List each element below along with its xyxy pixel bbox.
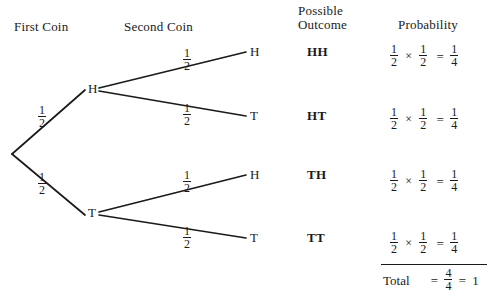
fraction-numerator: 1 (390, 43, 398, 55)
probability-expression-ht: 1 2 × 1 2 = 1 4 (390, 107, 458, 132)
branch-t-to-th (99, 175, 246, 212)
node-second-coin-t-2: T (250, 231, 258, 244)
node-first-coin-h: H (88, 82, 97, 95)
fraction-denominator: 2 (38, 116, 46, 129)
branch-h-to-ht (99, 91, 246, 116)
branch-prob-second-th: 1 2 (183, 170, 191, 195)
outcome-tt: TT (307, 231, 325, 244)
fraction-denominator: 2 (390, 180, 398, 193)
probability-expression-tt: 1 2 × 1 2 = 1 4 (390, 231, 458, 256)
outcome-hh: HH (307, 45, 328, 58)
branch-prob-second-ht: 1 2 (183, 103, 191, 128)
fraction-denominator: 2 (38, 183, 46, 196)
node-first-coin-t: T (88, 206, 96, 219)
fraction-denominator: 2 (419, 180, 427, 193)
header-possible-outcome-line1: Possible (298, 4, 343, 17)
fraction-denominator: 2 (183, 114, 191, 127)
fraction-numerator: 1 (390, 106, 398, 118)
multiply-symbol: × (401, 112, 416, 127)
branch-root-to-t (12, 154, 85, 215)
fraction-numerator: 1 (419, 106, 427, 118)
node-second-coin-h-2: H (250, 168, 259, 181)
total-label: Total (383, 273, 410, 289)
fraction-numerator: 1 (419, 230, 427, 242)
total-equals-2: = (456, 273, 469, 289)
fraction-numerator: 1 (390, 168, 398, 180)
fraction-numerator: 1 (450, 230, 458, 242)
node-second-coin-h-1: H (250, 45, 259, 58)
node-second-coin-t-1: T (250, 109, 258, 122)
fraction-denominator: 4 (444, 279, 452, 292)
outcome-ht: HT (307, 109, 327, 122)
fraction-numerator: 1 (183, 102, 191, 114)
fraction-denominator: 2 (183, 237, 191, 250)
probability-tree-diagram: First Coin Second Coin Possible Outcome … (0, 0, 496, 299)
fraction-denominator: 2 (390, 242, 398, 255)
fraction-denominator: 2 (419, 55, 427, 68)
fraction-denominator: 2 (390, 55, 398, 68)
fraction-numerator: 1 (450, 168, 458, 180)
fraction-denominator: 4 (450, 118, 458, 131)
fraction-denominator: 2 (390, 118, 398, 131)
multiply-symbol: × (401, 236, 416, 251)
fraction-numerator: 1 (38, 104, 46, 116)
fraction-numerator: 1 (38, 171, 46, 183)
total-row: Total = 4 4 = 1 (383, 268, 479, 293)
header-probability: Probability (398, 18, 458, 31)
header-first-coin: First Coin (14, 20, 68, 33)
header-second-coin: Second Coin (124, 20, 193, 33)
fraction-denominator: 4 (450, 180, 458, 193)
fraction-numerator: 1 (183, 169, 191, 181)
fraction-numerator: 1 (183, 225, 191, 237)
fraction-denominator: 4 (450, 242, 458, 255)
probability-expression-th: 1 2 × 1 2 = 1 4 (390, 169, 458, 194)
fraction-numerator: 1 (450, 106, 458, 118)
fraction-denominator: 2 (183, 181, 191, 194)
fraction-numerator: 1 (450, 43, 458, 55)
probability-expression-hh: 1 2 × 1 2 = 1 4 (390, 44, 458, 69)
equals-symbol: = (431, 112, 447, 128)
outcome-th: TH (307, 168, 327, 181)
branch-h-to-hh (99, 52, 246, 88)
branch-t-to-tt (99, 215, 246, 238)
total-equals-1: = (413, 273, 441, 289)
equals-symbol: = (431, 174, 447, 190)
multiply-symbol: × (401, 174, 416, 189)
fraction-denominator: 4 (450, 55, 458, 68)
multiply-symbol: × (401, 49, 416, 64)
branch-prob-second-tt: 1 2 (183, 226, 191, 251)
equals-symbol: = (431, 49, 447, 65)
total-value: 1 (472, 273, 479, 289)
total-separator-rule (381, 264, 487, 265)
fraction-numerator: 4 (444, 267, 452, 279)
fraction-denominator: 2 (419, 118, 427, 131)
fraction-numerator: 1 (419, 43, 427, 55)
branch-prob-first-t: 1 2 (38, 172, 46, 197)
fraction-numerator: 1 (390, 230, 398, 242)
fraction-denominator: 2 (419, 242, 427, 255)
fraction-numerator: 1 (183, 47, 191, 59)
branch-prob-second-hh: 1 2 (183, 48, 191, 73)
branch-prob-first-h: 1 2 (38, 105, 46, 130)
header-possible-outcome-line2: Outcome (298, 18, 347, 31)
fraction-numerator: 1 (419, 168, 427, 180)
fraction-denominator: 2 (183, 59, 191, 72)
equals-symbol: = (431, 236, 447, 252)
branch-root-to-h (12, 90, 85, 154)
